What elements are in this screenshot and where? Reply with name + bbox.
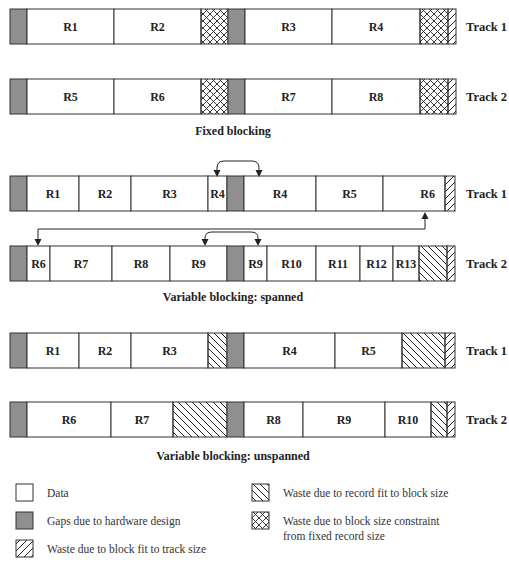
gap-segment (10, 9, 27, 44)
record-label: R13 (396, 257, 417, 271)
track-1: R1R2R3R4R4R5R6Track 1 (10, 176, 507, 211)
gap-segment (227, 402, 244, 437)
track-1: R1R2R3R4R5Track 1 (10, 333, 507, 368)
track-label: Track 2 (466, 90, 507, 104)
section-caption: Fixed blocking (195, 124, 271, 138)
gap-segment-box (10, 176, 27, 211)
legend-item-backward: Waste due to record fit to block size (252, 484, 448, 501)
gap-segment (10, 79, 27, 114)
legend-item-crosshatch: Waste due to block size constraintfrom f… (252, 512, 440, 542)
crosshatch-segment (420, 9, 448, 44)
track-2: R6R7R8R9R10Track 2 (10, 402, 507, 437)
legend-label: Waste due to block size constraint (283, 515, 440, 527)
sections-layer: R1R2R3R4Track 1R5R6R7R8Track 2Fixed bloc… (10, 9, 507, 463)
backward-segment (431, 402, 447, 437)
record-r9: R9 (244, 246, 267, 281)
legend-swatch-gap (16, 512, 33, 529)
gap-segment-box (227, 402, 244, 437)
record-label: R2 (98, 187, 113, 201)
record-label: R1 (63, 20, 78, 34)
gap-segment-box (10, 333, 27, 368)
crosshatch-segment-box (420, 79, 448, 114)
blocking-methods-diagram: R1R2R3R4Track 1R5R6R7R8Track 2Fixed bloc… (0, 0, 509, 572)
forward-segment-box (445, 176, 455, 211)
gap-segment-box (227, 246, 244, 281)
legend-swatch-forward (16, 540, 33, 557)
r9-arrowhead-right (255, 239, 262, 246)
record-r2: R2 (79, 333, 131, 368)
gap-segment (227, 176, 244, 211)
record-r3: R3 (131, 176, 208, 211)
crosshatch-segment (201, 79, 228, 114)
gap-segment-box (10, 246, 27, 281)
record-r8: R8 (332, 79, 420, 114)
backward-segment (208, 333, 227, 368)
record-label: R4 (273, 187, 288, 201)
record-label: R6 (31, 257, 46, 271)
record-r6-box (383, 176, 445, 211)
track-label: Track 2 (466, 257, 507, 271)
record-r6: R6 (27, 246, 50, 281)
gap-segment (10, 402, 27, 437)
record-label: R5 (63, 90, 78, 104)
record-r3: R3 (131, 333, 208, 368)
record-r6: R6 (383, 176, 445, 211)
record-r9: R9 (303, 402, 385, 437)
crosshatch-segment-box (201, 9, 228, 44)
legend-swatch-crosshatch (252, 512, 269, 529)
record-label: R4 (210, 187, 225, 201)
forward-segment-box (448, 79, 456, 114)
backward-segment-box (431, 402, 447, 437)
record-r7: R7 (111, 402, 173, 437)
track-1: R1R2R3R4Track 1 (10, 9, 507, 44)
crosshatch-segment (201, 9, 228, 44)
record-r1: R1 (27, 176, 79, 211)
record-label: R3 (281, 20, 296, 34)
gap-segment (227, 333, 244, 368)
record-r4: R4 (332, 9, 420, 44)
track-label: Track 2 (466, 413, 507, 427)
legend: DataGaps due to hardware designWaste due… (16, 484, 448, 557)
legend-swatch-data (16, 484, 33, 501)
record-label: R10 (398, 413, 419, 427)
legend-label: Data (47, 487, 69, 499)
crosshatch-segment-box (201, 79, 228, 114)
record-r11: R11 (316, 246, 360, 281)
record-label: R1 (46, 187, 61, 201)
record-r10: R10 (385, 402, 431, 437)
forward-segment-box (447, 246, 455, 281)
r6-arrowhead-down (35, 239, 42, 246)
legend-label: Waste due to block fit to track size (47, 543, 206, 555)
record-r8: R8 (112, 246, 170, 281)
backward-segment-box (173, 402, 227, 437)
crosshatch-segment-box (420, 9, 448, 44)
record-label: R5 (342, 187, 357, 201)
record-label: R6 (150, 90, 165, 104)
track-label: Track 1 (466, 20, 507, 34)
section-caption: Variable blocking: unspanned (156, 449, 310, 463)
r4-continuation-arrow (217, 161, 259, 175)
r6-arrowhead-up (422, 212, 429, 219)
gap-segment (228, 79, 245, 114)
record-label: R11 (328, 257, 348, 271)
gap-segment-box (10, 402, 27, 437)
record-label: R8 (266, 413, 281, 427)
gap-segment (10, 333, 27, 368)
record-r1: R1 (27, 9, 114, 44)
gap-segment-box (10, 9, 27, 44)
record-r4: R4 (244, 333, 335, 368)
forward-segment (447, 402, 455, 437)
record-label: R5 (361, 344, 376, 358)
r9-arrowhead-left (202, 239, 209, 246)
forward-segment-box (447, 402, 455, 437)
legend-swatch-backward (252, 484, 269, 501)
record-r2: R2 (79, 176, 131, 211)
forward-segment (448, 79, 456, 114)
gap-segment-box (228, 79, 245, 114)
forward-segment (445, 176, 455, 211)
record-r12: R12 (360, 246, 393, 281)
legend-label: Gaps due to hardware design (47, 515, 181, 528)
record-r13: R13 (393, 246, 419, 281)
legend-item-data: Data (16, 484, 69, 501)
forward-segment-box (445, 333, 455, 368)
